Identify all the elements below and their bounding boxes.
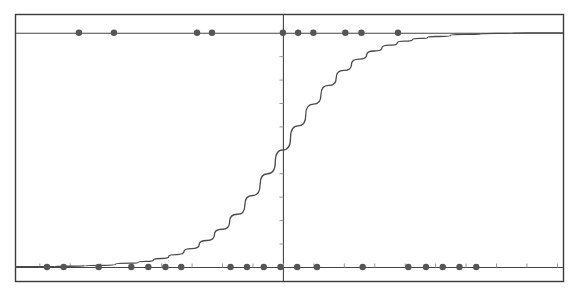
class-1-observations-point — [295, 30, 301, 36]
class-0-observations-point — [244, 264, 250, 270]
class-0-observations-point — [456, 264, 462, 270]
class-1-observations-point — [194, 30, 200, 36]
class-0-observations-point — [440, 264, 446, 270]
class-0-observations-point — [473, 264, 479, 270]
class-0-observations-point — [277, 264, 283, 270]
class-1-observations-point — [209, 30, 215, 36]
class-1-observations-point — [111, 30, 117, 36]
class-0-observations-point — [227, 264, 233, 270]
class-0-observations-point — [359, 264, 365, 270]
class-0-observations-point — [128, 264, 134, 270]
class-1-observations-point — [280, 30, 286, 36]
class-0-observations-point — [44, 264, 50, 270]
class-0-observations-point — [294, 264, 300, 270]
class-0-observations-point — [96, 264, 102, 270]
class-0-observations-point — [261, 264, 267, 270]
plot-canvas — [0, 0, 580, 293]
class-0-observations-point — [405, 264, 411, 270]
class-0-observations-point — [61, 264, 67, 270]
class-0-observations-point — [178, 264, 184, 270]
plot-frame — [16, 15, 564, 282]
class-0-observations-point — [145, 264, 151, 270]
class-0-observations-point — [162, 264, 168, 270]
logistic-fit-curve — [15, 33, 563, 267]
class-1-observations-point — [342, 30, 348, 36]
class-1-observations-point — [310, 30, 316, 36]
class-0-observations-point — [423, 264, 429, 270]
class-1-observations-point — [358, 30, 364, 36]
class-1-observations-point — [76, 30, 82, 36]
logistic-regression-chart — [0, 0, 580, 293]
class-0-observations-point — [314, 264, 320, 270]
class-1-observations-point — [395, 30, 401, 36]
